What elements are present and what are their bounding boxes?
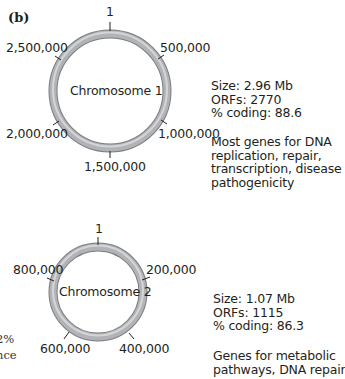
chr1-description: Most genes for DNA replication, repair, …: [211, 135, 342, 189]
chr2-tick-200000: 200,000: [146, 262, 196, 277]
panel-label: (b): [8, 10, 29, 25]
chr1-tick-1: 1: [106, 4, 114, 19]
chr2-tick-600000: 600,000: [40, 341, 90, 356]
chr1-coding: % coding: 88.6: [211, 106, 302, 120]
chr1-orfs: ORFs: 2770: [211, 93, 302, 107]
chr1-tick-2500000: 2,500,000: [6, 40, 68, 55]
chr2-name: Chromosome 2: [59, 284, 152, 299]
chr1-name: Chromosome 1: [70, 83, 163, 98]
chr1-tick-1500000: 1,500,000: [84, 159, 146, 174]
chr2-size: Size: 1.07 Mb: [213, 292, 304, 306]
chr2-tick-800000: 800,000: [13, 262, 63, 277]
chr1-tick-2000000: 2,000,000: [6, 126, 68, 141]
chr2-tick-400000: 400,000: [119, 341, 169, 356]
chr2-coding: % coding: 86.3: [213, 319, 304, 333]
chr2-tick-1: 1: [95, 221, 103, 236]
chr1-tick-500000: 500,000: [160, 40, 210, 55]
chr1-stats: Size: 2.96 Mb ORFs: 2770 % coding: 88.6: [211, 79, 302, 120]
chr1-size: Size: 2.96 Mb: [211, 79, 302, 93]
chr2-stats: Size: 1.07 Mb ORFs: 1115 % coding: 86.3: [213, 292, 304, 333]
clipped-left-text: 2% nce .: [0, 331, 17, 379]
chr2-orfs: ORFs: 1115: [213, 306, 304, 320]
chr2-description: Genes for metabolic pathways, DNA repair: [213, 349, 345, 376]
